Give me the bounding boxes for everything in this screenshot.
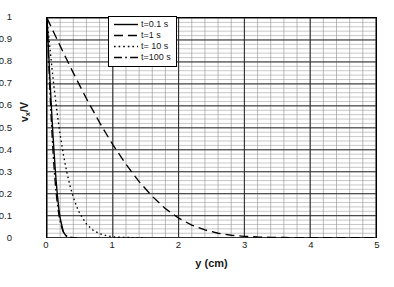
legend-line-sample bbox=[113, 30, 139, 41]
legend-line-sample bbox=[113, 52, 139, 63]
chart-figure: vx/V y (cm) 00.10.20.30.40.50.60.70.80.9… bbox=[0, 0, 394, 287]
x-axis-tick: 4 bbox=[291, 240, 331, 250]
legend-item: t=1 s bbox=[113, 30, 171, 41]
legend: t=0.1 st=1 st= 10 st=100 s bbox=[108, 16, 177, 67]
y-axis-tick: 1 bbox=[0, 12, 12, 22]
legend-item-label: t=0.1 s bbox=[141, 20, 168, 29]
data-curves bbox=[47, 18, 376, 238]
x-axis-tick: 2 bbox=[158, 240, 198, 250]
y-axis-tick: 0.1 bbox=[0, 211, 12, 221]
legend-item-label: t= 10 s bbox=[141, 42, 168, 51]
y-axis-label-subscript: x bbox=[23, 112, 32, 116]
legend-item: t= 10 s bbox=[113, 41, 171, 52]
x-axis-tick: 1 bbox=[92, 240, 132, 250]
y-axis-tick: 0.6 bbox=[0, 100, 12, 110]
x-axis-tick: 3 bbox=[225, 240, 265, 250]
legend-line-sample bbox=[113, 41, 139, 52]
y-axis-tick: 0.8 bbox=[0, 56, 12, 66]
y-axis-tick: 0.2 bbox=[0, 189, 12, 199]
curve-1 bbox=[47, 18, 376, 238]
y-axis-tick: 0.7 bbox=[0, 78, 12, 88]
y-axis-tick: 0.5 bbox=[0, 123, 12, 133]
legend-item-label: t=1 s bbox=[141, 31, 161, 40]
x-axis-tick: 0 bbox=[26, 240, 66, 250]
y-axis-label-base: v bbox=[18, 116, 30, 122]
legend-item: t=100 s bbox=[113, 52, 171, 63]
y-axis-label: vx/V bbox=[18, 89, 32, 135]
legend-item: t=0.1 s bbox=[113, 19, 171, 30]
curve-3 bbox=[47, 18, 77, 238]
y-axis-tick: 0.3 bbox=[0, 167, 12, 177]
x-axis-tick: 5 bbox=[357, 240, 394, 250]
y-axis-label-tail: /V bbox=[18, 102, 30, 112]
legend-item-label: t=100 s bbox=[141, 53, 171, 62]
plot-area bbox=[46, 17, 377, 238]
legend-line-sample bbox=[113, 19, 139, 30]
y-axis-tick: 0.4 bbox=[0, 145, 12, 155]
y-axis-tick: 0.9 bbox=[0, 34, 12, 44]
x-axis-label: y (cm) bbox=[46, 257, 377, 269]
y-axis-tick: 0 bbox=[0, 233, 12, 243]
